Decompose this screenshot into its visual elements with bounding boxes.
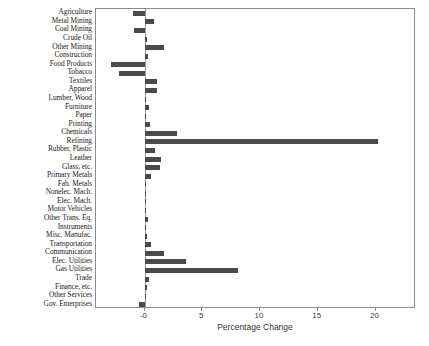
bar <box>145 54 148 59</box>
category-label: Other Mining <box>0 43 92 50</box>
percentage-change-bar-chart: AgricultureMetal MiningCoal MiningCrude … <box>0 0 429 346</box>
bar <box>145 217 148 222</box>
category-label: Food Products <box>0 60 92 67</box>
category-axis-labels: AgricultureMetal MiningCoal MiningCrude … <box>0 8 92 308</box>
bar <box>145 79 158 84</box>
bar <box>111 62 145 67</box>
bar <box>145 157 161 162</box>
category-label: Fab. Metals <box>0 180 92 187</box>
category-label: Other Services <box>0 291 92 298</box>
category-label: Leather <box>0 154 92 161</box>
category-label: Rubber, Plastic <box>0 145 92 152</box>
bar <box>145 105 150 110</box>
x-tick-label: 15 <box>312 311 321 321</box>
category-label: Apparel <box>0 85 92 92</box>
category-label: Transportation <box>0 240 92 247</box>
category-label: Glass, etc. <box>0 163 92 170</box>
category-label: Tobacco <box>0 68 92 75</box>
category-label: Gas Utilities <box>0 265 92 272</box>
bar <box>134 28 144 33</box>
bar <box>145 148 155 153</box>
category-label: Finance, etc. <box>0 283 92 290</box>
bar <box>145 45 165 50</box>
category-label: Crude Oil <box>0 34 92 41</box>
category-label: Coal Mining <box>0 25 92 32</box>
bar <box>145 139 378 144</box>
category-label: Printing <box>0 120 92 127</box>
category-label: Nonelec. Mach. <box>0 188 92 195</box>
bar <box>145 268 239 273</box>
category-label: Gov. Enterprises <box>0 300 92 307</box>
category-label: Instruments <box>0 223 92 230</box>
bar <box>145 208 147 213</box>
category-label: Construction <box>0 51 92 58</box>
bar <box>145 277 150 282</box>
bar <box>145 294 147 299</box>
bar <box>145 242 152 247</box>
bar <box>145 191 147 196</box>
category-label: Trade <box>0 274 92 281</box>
category-label: Lumber, Wood <box>0 94 92 101</box>
bar <box>145 19 154 24</box>
category-label: Metal Mining <box>0 17 92 24</box>
bar <box>133 11 145 16</box>
category-label: Agriculture <box>0 8 92 15</box>
bar <box>145 199 147 204</box>
bar <box>145 165 160 170</box>
bar <box>145 131 177 136</box>
bar <box>145 285 147 290</box>
category-label: Refining <box>0 137 92 144</box>
bar <box>145 37 147 42</box>
x-axis-title: Percentage Change <box>95 322 415 332</box>
bar <box>145 234 147 239</box>
category-label: Communication <box>0 248 92 255</box>
bar <box>145 259 187 264</box>
category-label: Misc. Manufac. <box>0 231 92 238</box>
bar <box>145 88 158 93</box>
bar <box>145 114 147 119</box>
bar <box>145 251 165 256</box>
bar <box>119 71 144 76</box>
category-label: Paper <box>0 111 92 118</box>
category-label: Other Trans. Eq. <box>0 214 92 221</box>
category-label: Furniture <box>0 103 92 110</box>
bars-container <box>96 9 414 307</box>
category-label: Elec. Utilities <box>0 257 92 264</box>
x-tick-label: 10 <box>255 311 264 321</box>
category-label: Textiles <box>0 77 92 84</box>
bar <box>145 182 147 187</box>
x-tick-label: -0 <box>140 311 147 321</box>
bar <box>145 174 152 179</box>
category-label: Elec. Mach. <box>0 197 92 204</box>
category-label: Motor Vehicles <box>0 205 92 212</box>
plot-area <box>95 8 415 308</box>
bar <box>145 97 147 102</box>
category-label: Primary Metals <box>0 171 92 178</box>
category-label: Chemicals <box>0 128 92 135</box>
x-tick-label: 5 <box>199 311 203 321</box>
bar <box>145 225 147 230</box>
x-tick-label: 20 <box>370 311 379 321</box>
bar <box>145 122 151 127</box>
